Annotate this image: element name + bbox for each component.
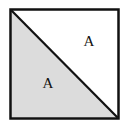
square-diagonal-figure: A A: [0, 0, 127, 129]
figure-canvas: A A: [0, 0, 127, 129]
lower-left-triangle-label: A: [43, 75, 54, 91]
upper-right-triangle-label: A: [84, 33, 95, 49]
